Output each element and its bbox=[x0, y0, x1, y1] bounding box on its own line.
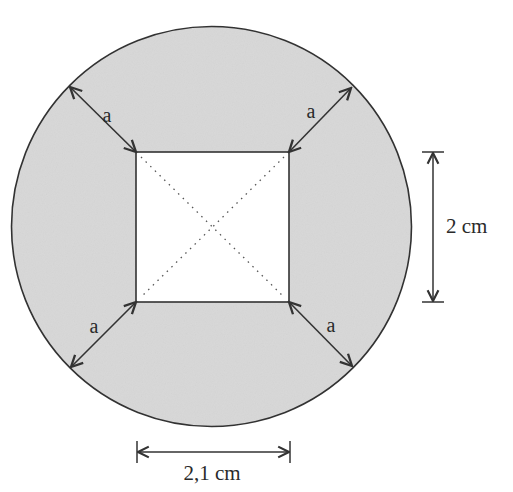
width-dimension bbox=[137, 441, 290, 463]
diagram-canvas: a a a a 2 cm 2,1 cm bbox=[0, 0, 513, 492]
gap-label-bottom-left: a bbox=[90, 315, 99, 337]
height-dimension bbox=[422, 152, 444, 302]
height-dimension-label: 2 cm bbox=[446, 214, 487, 238]
gap-label-bottom-right: a bbox=[327, 314, 336, 336]
width-dimension-label: 2,1 cm bbox=[183, 461, 240, 485]
gap-label-top-left: a bbox=[103, 104, 112, 126]
gap-label-top-right: a bbox=[307, 100, 316, 122]
inner-square bbox=[136, 152, 289, 302]
